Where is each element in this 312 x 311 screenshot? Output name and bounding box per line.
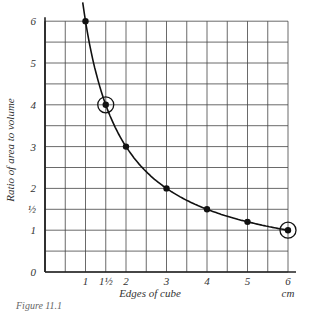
x-tick-label: 3 xyxy=(163,275,170,287)
y-axis-ticks: 01½23456 xyxy=(28,15,37,278)
chart-axes xyxy=(45,17,296,272)
x-tick-label: 2 xyxy=(123,275,129,287)
x-axis-label: Edges of cube xyxy=(118,287,181,299)
x-tick-label: 1 xyxy=(83,275,89,287)
y-tick-label: 1 xyxy=(31,224,37,236)
figure-caption: Figure 11.1 xyxy=(16,300,62,311)
data-point xyxy=(103,102,109,108)
x-tick-label: 6 xyxy=(285,275,291,287)
x-axis-unit: cm xyxy=(282,287,295,299)
y-tick-label: 3 xyxy=(30,141,37,153)
x-axis-ticks: 11½23456 xyxy=(83,275,292,287)
data-point xyxy=(163,185,169,191)
y-tick-label: 4 xyxy=(31,99,37,111)
chart-grid xyxy=(45,21,288,272)
data-point xyxy=(204,206,210,212)
data-points xyxy=(82,18,296,238)
x-tick-label: 5 xyxy=(245,275,251,287)
y-tick-label: 5 xyxy=(31,57,37,69)
x-tick-label: 1½ xyxy=(99,275,113,287)
data-point xyxy=(82,18,88,24)
data-point xyxy=(285,227,291,233)
x-tick-label: 4 xyxy=(204,275,210,287)
y-axis-label: Ratio of area to volume xyxy=(4,98,16,203)
y-tick-label: 6 xyxy=(31,15,37,27)
y-tick-label: 2 xyxy=(31,182,37,194)
ratio-curve xyxy=(83,2,288,230)
data-point xyxy=(244,219,250,225)
data-curve xyxy=(83,2,288,230)
y-tick-label: ½ xyxy=(28,203,36,215)
data-point xyxy=(123,143,129,149)
y-tick-label: 0 xyxy=(31,266,37,278)
